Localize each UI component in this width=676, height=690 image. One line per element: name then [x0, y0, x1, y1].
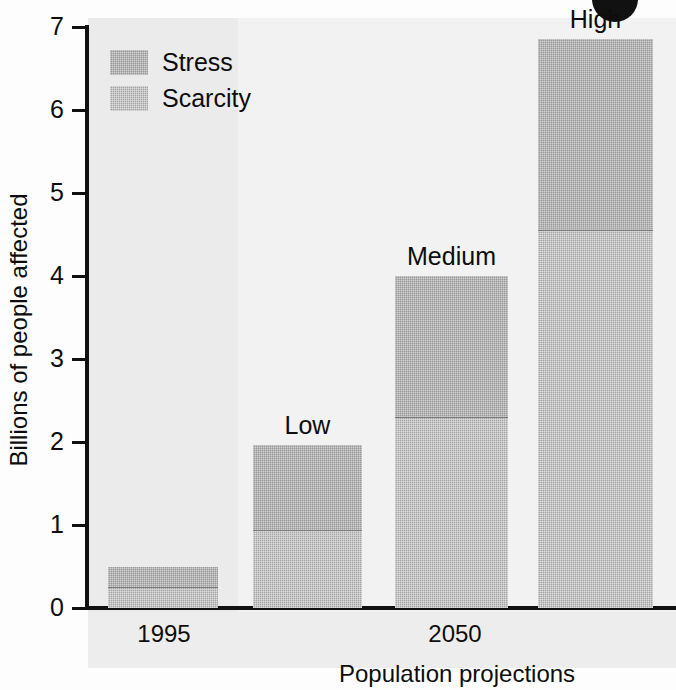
bar-segment-scarcity[interactable]	[538, 230, 653, 608]
legend-swatch-stress	[110, 50, 148, 75]
bar-label-high: High	[570, 7, 621, 32]
y-tick-mark	[72, 192, 85, 195]
bar-low[interactable]: Low	[253, 445, 362, 609]
y-tick-label: 1	[28, 512, 64, 537]
bar-segment-divider	[395, 417, 508, 418]
y-tick-label: 0	[28, 595, 64, 620]
bar-segment-scarcity[interactable]	[108, 587, 218, 608]
bar-1995[interactable]	[108, 567, 218, 609]
legend-item-stress[interactable]: Stress	[110, 46, 251, 78]
bar-segment-scarcity[interactable]	[253, 530, 362, 608]
y-tick-mark	[72, 441, 85, 444]
y-tick-label: 4	[28, 263, 64, 288]
bar-medium[interactable]: Medium	[395, 276, 508, 608]
bar-segment-divider	[108, 587, 218, 588]
y-tick-mark	[72, 109, 85, 112]
chart-legend: StressScarcity	[110, 46, 251, 118]
y-tick-label: 6	[28, 97, 64, 122]
bar-segment-stress[interactable]	[108, 567, 218, 588]
bar-label-medium: Medium	[407, 244, 496, 269]
bar-segment-stress[interactable]	[538, 39, 653, 230]
legend-label-scarcity: Scarcity	[162, 86, 251, 111]
x-group-label-2050: 2050	[385, 622, 525, 646]
y-tick-label: 2	[28, 429, 64, 454]
x-axis-title: Population projections	[238, 662, 676, 686]
bar-label-low: Low	[285, 413, 331, 438]
legend-label-stress: Stress	[162, 50, 233, 75]
y-tick-mark	[72, 275, 85, 278]
chart-figure: 76543210 LowMediumHigh StressScarcity Bi…	[0, 0, 676, 690]
y-tick-label: 5	[28, 180, 64, 205]
bar-segment-stress[interactable]	[395, 276, 508, 417]
bar-segment-divider	[253, 530, 362, 531]
bar-segment-divider	[538, 230, 653, 231]
bar-high[interactable]: High	[538, 39, 653, 608]
y-tick-mark	[72, 524, 85, 527]
x-group-label-1995: 1995	[108, 622, 220, 646]
bar-segment-stress[interactable]	[253, 445, 362, 530]
bar-segment-scarcity[interactable]	[395, 417, 508, 608]
y-tick-mark	[72, 607, 85, 610]
y-tick-mark	[72, 26, 85, 29]
legend-item-scarcity[interactable]: Scarcity	[110, 82, 251, 114]
y-tick-label: 3	[28, 346, 64, 371]
y-axis-title: Billions of people affected	[7, 105, 31, 555]
legend-swatch-scarcity	[110, 86, 148, 111]
y-tick-mark	[72, 358, 85, 361]
y-tick-label: 7	[28, 14, 64, 39]
